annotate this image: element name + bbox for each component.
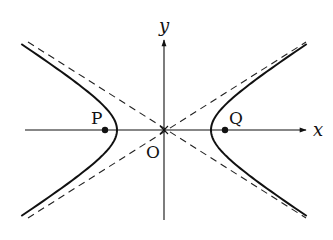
y-axis-label: y xyxy=(158,15,170,36)
point-p xyxy=(102,127,108,133)
x-axis-label: x xyxy=(313,119,323,140)
point-q-label: Q xyxy=(229,108,243,128)
hyperbola-diagram: P Q O x y xyxy=(0,0,333,240)
point-p-label: P xyxy=(91,108,102,128)
origin-label: O xyxy=(146,142,160,162)
point-q xyxy=(222,127,228,133)
